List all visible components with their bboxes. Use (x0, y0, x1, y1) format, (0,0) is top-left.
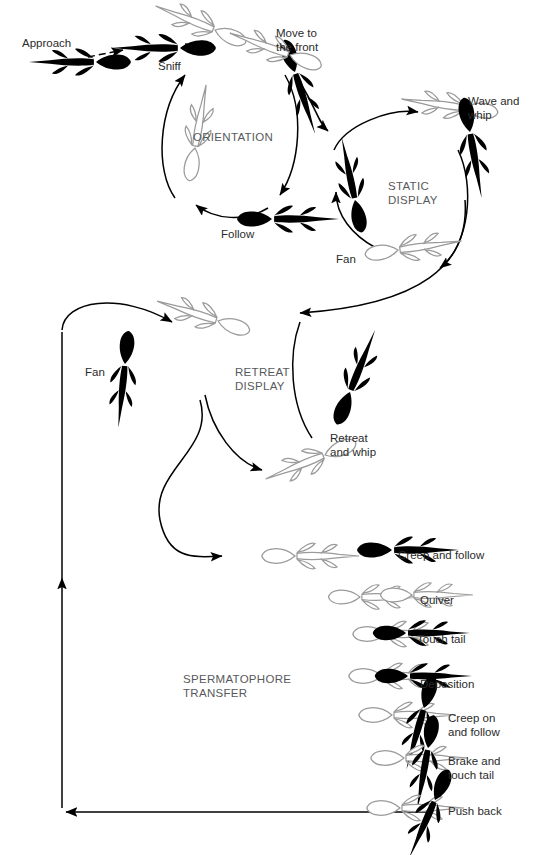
phase-label-static-display: STATIC DISPLAY (388, 180, 438, 207)
label-fan-retreat: Fan (85, 366, 105, 380)
label-follow: Follow (221, 228, 254, 242)
label-touch-tail: Touch tail (417, 633, 466, 647)
label-quiver: Quiver (420, 594, 454, 608)
diagram-canvas: ORIENTATION STATIC DISPLAY RETREAT DISPL… (0, 0, 544, 855)
label-move-to-the-front: Move to the front (276, 27, 318, 54)
label-approach: Approach (22, 37, 71, 51)
phase-label-spermatophore-transfer: SPERMATOPHORE TRANSFER (183, 673, 291, 700)
label-fan-static: Fan (336, 253, 356, 267)
phase-label-orientation: ORIENTATION (193, 131, 273, 145)
label-wave-and-whip: Wave and whip (468, 95, 519, 122)
label-sniff: Sniff (158, 60, 181, 74)
label-creep-and-follow: Creep and follow (398, 549, 484, 563)
label-push-back: Push back (448, 805, 502, 819)
phase-label-retreat-display: RETREAT DISPLAY (235, 366, 290, 393)
label-retreat-and-whip: Retreat and whip (330, 432, 376, 459)
label-deposition: Deposition (420, 678, 474, 692)
label-brake-and-touch-tail: Brake and touch tail (448, 755, 500, 782)
newt-figures (29, 0, 500, 855)
label-creep-on-and-follow: Creep on and follow (448, 712, 500, 739)
